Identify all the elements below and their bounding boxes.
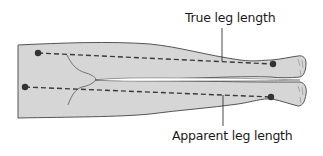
landmark-dot-asis: [35, 50, 41, 56]
landmark-dot-umbilicus: [22, 84, 28, 90]
apparent-leg-length-label: Apparent leg length: [172, 128, 293, 143]
landmark-dot-ankle-lower: [268, 94, 274, 100]
landmark-dot-ankle-upper: [270, 61, 276, 67]
leg-gap: [96, 78, 300, 81]
true-leg-length-label: True leg length: [185, 10, 275, 25]
leg-length-diagram: True leg length Apparent leg length: [0, 0, 323, 156]
